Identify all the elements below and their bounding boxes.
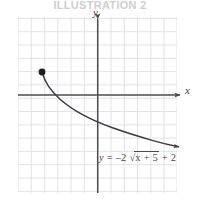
y-axis-label: y — [93, 6, 98, 18]
x-axis-label: x — [185, 84, 190, 96]
equation-radicand: x + 5 — [134, 151, 159, 163]
figure-title: ILLUSTRATION 2 — [0, 0, 200, 11]
endpoint-dot — [39, 69, 46, 76]
equation-tail: + 2 — [162, 152, 176, 163]
equation-coefficient: –2 — [116, 152, 127, 163]
equation-label: y = –2 √x + 5 + 2 — [99, 151, 176, 163]
equation-equals: = — [107, 152, 113, 163]
figure-background — [0, 0, 200, 199]
equation-lhs: y — [99, 152, 104, 163]
illustration-figure: ILLUSTRATION 2 — [0, 0, 200, 199]
coordinate-plane-plot — [0, 0, 200, 199]
